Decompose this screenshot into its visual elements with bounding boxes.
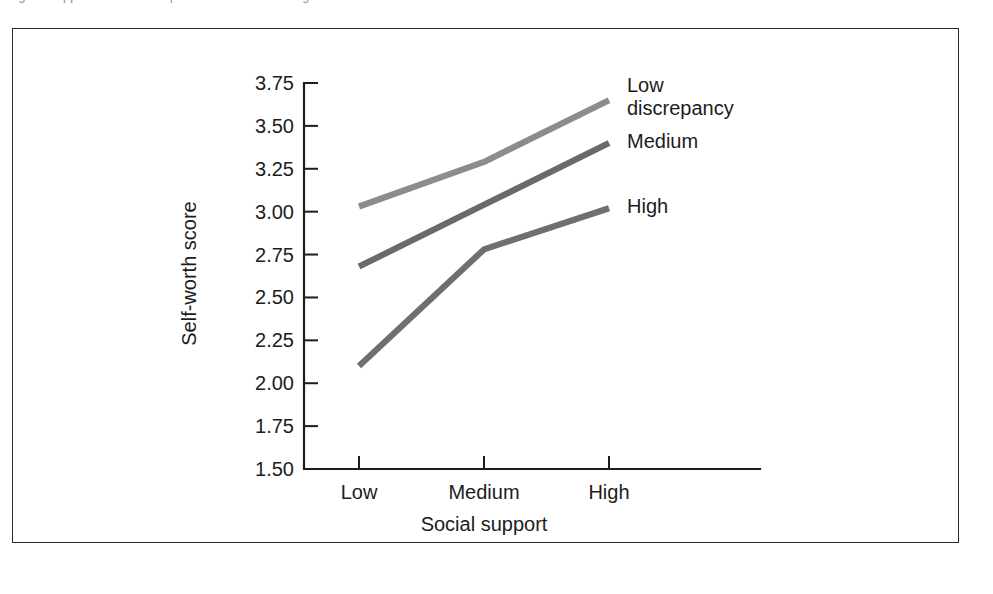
y-tick-label: 2.25 bbox=[220, 329, 294, 352]
series-label-2: High bbox=[627, 195, 668, 218]
series-line-2 bbox=[359, 208, 609, 366]
series-lines bbox=[359, 100, 609, 366]
x-tick-label: Low bbox=[341, 481, 378, 504]
y-tick-label: 2.00 bbox=[220, 372, 294, 395]
y-axis-title: Self-worth score bbox=[178, 159, 201, 389]
series-label-0: Low discrepancy bbox=[627, 74, 734, 120]
y-tick-label: 3.75 bbox=[220, 72, 294, 95]
series-label-1: Medium bbox=[627, 130, 698, 153]
page-caption-text: Figure Supportive relationships and self… bbox=[8, 0, 381, 3]
series-line-0 bbox=[359, 100, 609, 206]
y-tick-label: 3.25 bbox=[220, 157, 294, 180]
y-tick-label: 3.00 bbox=[220, 200, 294, 223]
x-axis-title: Social support bbox=[421, 513, 548, 536]
x-tick-label: High bbox=[588, 481, 629, 504]
figure-frame: 1.501.752.002.252.502.753.003.253.503.75… bbox=[12, 28, 959, 543]
y-tick-label: 2.75 bbox=[220, 243, 294, 266]
x-tick-label: Medium bbox=[448, 481, 519, 504]
page-caption-strip: Figure Supportive relationships and self… bbox=[0, 0, 993, 12]
y-tick-label: 2.50 bbox=[220, 286, 294, 309]
line-chart-canvas bbox=[13, 29, 960, 544]
y-tick-label: 3.50 bbox=[220, 114, 294, 137]
y-tick-label: 1.75 bbox=[220, 415, 294, 438]
y-tick-label: 1.50 bbox=[220, 458, 294, 481]
